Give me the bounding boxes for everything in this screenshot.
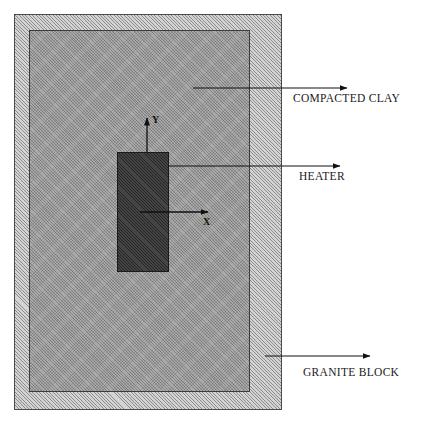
heater-label: HEATER [299, 170, 345, 182]
y-axis-label: Y [152, 114, 159, 125]
diagram-canvas: COMPACTED CLAY HEATER GRANITE BLOCK Y X [0, 0, 421, 425]
x-axis-label: X [203, 216, 210, 227]
compacted-clay-label: COMPACTED CLAY [293, 92, 400, 104]
granite-block-label: GRANITE BLOCK [303, 366, 399, 378]
heater-region [117, 152, 169, 272]
